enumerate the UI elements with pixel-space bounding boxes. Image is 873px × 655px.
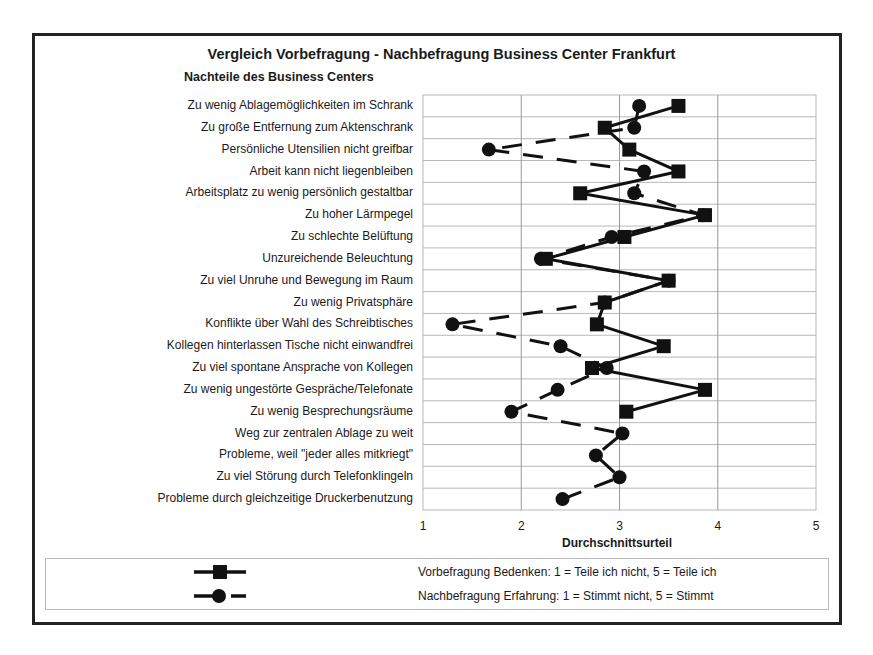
square-marker — [590, 317, 604, 331]
legend: Vorbefragung Bedenken: 1 = Teile ich nic… — [45, 558, 829, 610]
square-marker — [671, 164, 685, 178]
circle-marker — [637, 164, 651, 178]
circle-marker — [534, 252, 548, 266]
square-marker — [573, 186, 587, 200]
legend-label-nachbefragung: Nachbefragung Erfahrung: 1 = Stimmt nich… — [418, 589, 713, 603]
legend-circle-dash-icon — [194, 589, 246, 603]
legend-square-line-icon — [194, 565, 246, 579]
square-marker — [619, 405, 633, 419]
square-marker — [622, 143, 636, 157]
circle-marker — [551, 383, 565, 397]
circle-marker — [445, 317, 459, 331]
x-tick-label: 5 — [813, 519, 820, 533]
circle-marker — [605, 230, 619, 244]
square-marker — [657, 339, 671, 353]
x-tick-label: 1 — [420, 519, 427, 533]
circle-marker — [696, 208, 710, 222]
x-tick-label: 3 — [616, 519, 623, 533]
plot-area — [0, 0, 873, 655]
circle-marker — [600, 361, 614, 375]
circle-marker — [556, 492, 570, 506]
circle-marker — [662, 274, 676, 288]
square-marker — [671, 99, 685, 113]
circle-marker — [504, 405, 518, 419]
circle-marker — [598, 296, 612, 310]
square-marker — [617, 230, 631, 244]
circle-marker — [632, 99, 646, 113]
circle-marker — [554, 339, 568, 353]
circle-marker — [482, 143, 496, 157]
circle-marker — [627, 121, 641, 135]
circle-marker — [613, 470, 627, 484]
circle-marker — [627, 186, 641, 200]
square-marker — [698, 383, 712, 397]
x-tick-label: 4 — [714, 519, 721, 533]
x-axis-label: Durchschnittsurteil — [562, 536, 672, 550]
x-tick-label: 2 — [518, 519, 525, 533]
legend-label-vorbefragung: Vorbefragung Bedenken: 1 = Teile ich nic… — [418, 565, 716, 579]
circle-marker — [615, 427, 629, 441]
circle-marker — [589, 448, 603, 462]
